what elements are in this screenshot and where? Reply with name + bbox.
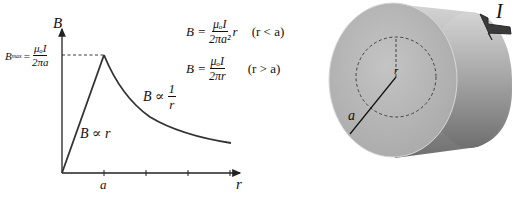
equation-inside: B = μₒI 2πa² r (r < a) — [186, 18, 284, 45]
equation-outside-condition: (r > a) — [248, 61, 281, 77]
x-axis-label: r — [236, 176, 242, 193]
equation-outside: B = μₒI 2πr (r > a) — [186, 55, 280, 82]
linear-segment — [62, 55, 104, 173]
equation-inside-fraction: μₒI 2πa² — [209, 18, 231, 45]
bmax-label: Bmax = μₒI 2πa — [5, 43, 48, 68]
equation-inside-denominator: 2πa² — [209, 32, 231, 45]
bmax-lhs: B — [5, 50, 12, 62]
cylinder-outer-radius-label: a — [348, 108, 355, 124]
cylinder — [329, 3, 512, 158]
equation-inside-lhs: B = — [186, 24, 206, 40]
inside-region-label: B ∝ r — [80, 125, 110, 142]
bmax-fraction: μₒI 2πa — [32, 43, 49, 68]
equation-outside-denominator: 2πr — [209, 69, 226, 82]
outside-region-numerator: 1 — [168, 82, 177, 97]
y-axis-label: B — [53, 15, 62, 32]
outside-region-label: B ∝ 1 r — [143, 82, 176, 111]
equation-outside-numerator: μₒI — [210, 55, 225, 69]
outside-region-lhs: B ∝ — [143, 88, 165, 105]
bmax-numerator: μₒI — [33, 43, 47, 56]
tick-label-a: a — [100, 177, 107, 193]
outside-region-fraction: 1 r — [168, 82, 177, 111]
cylinder-inner-radius-label: r — [394, 64, 398, 76]
bmax-denominator: 2πa — [32, 56, 49, 68]
bmax-equals: = — [24, 50, 30, 62]
equation-outside-fraction: μₒI 2πr — [209, 55, 226, 82]
equation-inside-numerator: μₒI — [212, 18, 227, 32]
current-label: I — [496, 0, 503, 23]
equation-inside-condition: (r < a) — [252, 24, 285, 40]
bmax-sub: max — [12, 53, 22, 59]
equation-outside-lhs: B = — [186, 61, 206, 77]
equation-inside-tail: r — [233, 24, 238, 40]
outside-region-denominator: r — [169, 97, 174, 111]
